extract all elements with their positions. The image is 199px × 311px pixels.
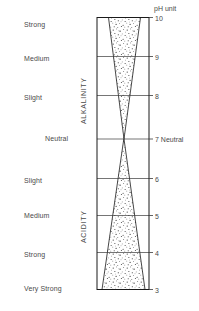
ph-scale-figure: pH unit Strong Medium Slight Neutral Sli… <box>0 0 199 311</box>
ph-chart-plot <box>0 0 199 311</box>
tick-label-6: 6 <box>155 176 159 184</box>
tick-label-8: 8 <box>155 93 159 101</box>
tick-label-7-neutral: Neutral <box>161 136 184 143</box>
tick-label-3: 3 <box>155 287 159 295</box>
tick-label-10: 10 <box>155 15 163 23</box>
stipple-fill-region <box>97 17 149 290</box>
tick-label-9: 9 <box>155 54 159 62</box>
tick-label-5: 5 <box>155 213 159 221</box>
axis-tick-marks <box>149 18 153 290</box>
tick-label-4: 4 <box>155 250 159 258</box>
tick-label-7-value: 7 <box>155 136 159 143</box>
tick-label-7: 7 Neutral <box>155 136 183 144</box>
